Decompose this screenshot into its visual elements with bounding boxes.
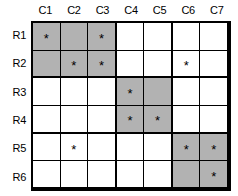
row-header-r6: R6 bbox=[2, 163, 29, 191]
column-header-c2: C2 bbox=[60, 2, 89, 18]
matrix-cell-r6-c1[interactable] bbox=[33, 161, 61, 189]
matrix-cell-r3-c6[interactable] bbox=[173, 78, 201, 106]
matrix-cell-r1-c1[interactable]: * bbox=[33, 23, 61, 51]
matrix-row: ** bbox=[33, 23, 229, 51]
matrix-cell-r4-c7[interactable] bbox=[200, 106, 229, 134]
matrix-cell-r5-c2[interactable]: * bbox=[61, 134, 89, 162]
matrix-cell-r2-c7[interactable] bbox=[200, 51, 229, 79]
column-header-c4: C4 bbox=[117, 2, 146, 18]
matrix-cell-r5-c6[interactable]: * bbox=[173, 134, 201, 162]
matrix-cell-r4-c4[interactable]: * bbox=[117, 106, 145, 134]
matrix-cell-r2-c5[interactable] bbox=[144, 51, 173, 79]
matrix-cell-r3-c5[interactable] bbox=[144, 78, 173, 106]
matrix-cell-r6-c7[interactable]: * bbox=[200, 161, 229, 189]
matrix-cell-r2-c6[interactable]: * bbox=[173, 51, 201, 79]
column-header-c3: C3 bbox=[88, 2, 117, 18]
asterisk-icon: * bbox=[61, 134, 88, 161]
column-header-row: C1C2C3C4C5C6C7 bbox=[31, 2, 231, 18]
row-header-column: R1R2R3R4R5R6 bbox=[2, 21, 29, 191]
column-header-c5: C5 bbox=[145, 2, 174, 18]
matrix-cell-r5-c5[interactable] bbox=[144, 134, 173, 162]
row-header-r1: R1 bbox=[2, 21, 29, 49]
matrix-row: ** bbox=[33, 106, 229, 134]
asterisk-icon: * bbox=[200, 161, 227, 187]
matrix-cell-r6-c3[interactable] bbox=[88, 161, 117, 189]
matrix-cell-r3-c2[interactable] bbox=[61, 78, 89, 106]
asterisk-icon: * bbox=[117, 78, 144, 105]
matrix-cell-r3-c7[interactable] bbox=[200, 78, 229, 106]
matrix-grid: ************ bbox=[31, 21, 231, 191]
asterisk-icon: * bbox=[200, 134, 227, 161]
matrix-cell-r4-c5[interactable]: * bbox=[144, 106, 173, 134]
asterisk-glyph: * bbox=[155, 114, 160, 127]
matrix-cell-r1-c2[interactable] bbox=[61, 23, 89, 51]
column-header-c7: C7 bbox=[202, 2, 231, 18]
matrix-cell-r2-c4[interactable] bbox=[117, 51, 145, 79]
matrix-cell-r5-c7[interactable]: * bbox=[200, 134, 229, 162]
matrix-cell-r6-c5[interactable] bbox=[144, 161, 173, 189]
asterisk-icon: * bbox=[61, 51, 88, 77]
asterisk-glyph: * bbox=[184, 59, 189, 72]
matrix-cell-r1-c3[interactable]: * bbox=[88, 23, 117, 51]
asterisk-icon: * bbox=[88, 51, 115, 77]
matrix-cell-r3-c3[interactable] bbox=[88, 78, 117, 106]
block-matrix-figure: C1C2C3C4C5C6C7 R1R2R3R4R5R6 ************ bbox=[0, 0, 238, 196]
row-header-r5: R5 bbox=[2, 134, 29, 162]
matrix-cell-r1-c7[interactable] bbox=[200, 23, 229, 51]
asterisk-icon: * bbox=[88, 23, 115, 50]
matrix-cell-r4-c3[interactable] bbox=[88, 106, 117, 134]
matrix-cell-r4-c1[interactable] bbox=[33, 106, 61, 134]
matrix-row: * bbox=[33, 161, 229, 189]
matrix-cell-r2-c1[interactable] bbox=[33, 51, 61, 79]
matrix-cell-r1-c5[interactable] bbox=[144, 23, 173, 51]
asterisk-glyph: * bbox=[127, 87, 132, 100]
matrix-cell-r4-c2[interactable] bbox=[61, 106, 89, 134]
asterisk-glyph: * bbox=[71, 59, 76, 72]
asterisk-icon: * bbox=[33, 23, 60, 50]
matrix-row: *** bbox=[33, 51, 229, 79]
asterisk-icon: * bbox=[173, 51, 200, 77]
matrix-cell-r6-c2[interactable] bbox=[61, 161, 89, 189]
matrix-cell-r2-c2[interactable]: * bbox=[61, 51, 89, 79]
matrix-cell-r1-c6[interactable] bbox=[173, 23, 201, 51]
asterisk-glyph: * bbox=[211, 143, 216, 156]
matrix-cell-r3-c4[interactable]: * bbox=[117, 78, 145, 106]
matrix-cell-r3-c1[interactable] bbox=[33, 78, 61, 106]
row-header-r4: R4 bbox=[2, 106, 29, 134]
matrix-cell-r2-c3[interactable]: * bbox=[88, 51, 117, 79]
asterisk-icon: * bbox=[144, 106, 171, 132]
asterisk-glyph: * bbox=[44, 32, 49, 45]
matrix-row: *** bbox=[33, 134, 229, 162]
asterisk-glyph: * bbox=[71, 143, 76, 156]
matrix-cell-r5-c3[interactable] bbox=[88, 134, 117, 162]
asterisk-glyph: * bbox=[211, 170, 216, 183]
matrix-cell-r1-c4[interactable] bbox=[117, 23, 145, 51]
row-header-r2: R2 bbox=[2, 49, 29, 77]
column-header-c1: C1 bbox=[31, 2, 60, 18]
asterisk-glyph: * bbox=[99, 32, 104, 45]
matrix-row: * bbox=[33, 78, 229, 106]
asterisk-glyph: * bbox=[99, 59, 104, 72]
asterisk-glyph: * bbox=[184, 143, 189, 156]
matrix-cell-r6-c6[interactable] bbox=[173, 161, 201, 189]
asterisk-icon: * bbox=[173, 134, 200, 161]
row-header-r3: R3 bbox=[2, 78, 29, 106]
matrix-cell-r6-c4[interactable] bbox=[117, 161, 145, 189]
asterisk-glyph: * bbox=[127, 114, 132, 127]
column-header-c6: C6 bbox=[174, 2, 203, 18]
matrix-cell-r4-c6[interactable] bbox=[173, 106, 201, 134]
asterisk-icon: * bbox=[117, 106, 144, 132]
matrix-cell-r5-c4[interactable] bbox=[117, 134, 145, 162]
matrix-cell-r5-c1[interactable] bbox=[33, 134, 61, 162]
